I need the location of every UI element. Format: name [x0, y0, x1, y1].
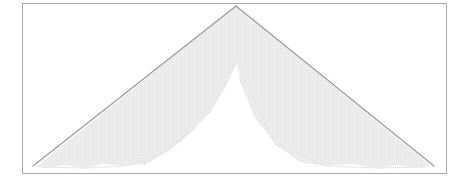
scan-speck-artifact [143, 162, 146, 165]
figure-canvas [0, 0, 469, 186]
figure-border-frame [22, 3, 447, 174]
